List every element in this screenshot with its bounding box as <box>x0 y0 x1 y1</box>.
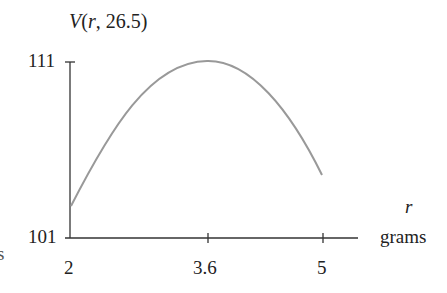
y-axis-title: V(r, 26.5) <box>69 10 147 33</box>
x-tick-label-5: 5 <box>317 257 327 279</box>
x-tick-label-2: 2 <box>64 257 74 279</box>
left-edge-fragment: s <box>0 243 4 265</box>
x-axis-variable: r <box>405 196 412 218</box>
v-curve <box>71 61 322 206</box>
x-axis-unit: grams <box>380 226 426 248</box>
x-tick-label-3.6: 3.6 <box>193 257 217 279</box>
chart-canvas <box>0 0 447 293</box>
y-tick-label-101: 101 <box>28 226 57 248</box>
y-tick-label-111: 111 <box>28 50 55 72</box>
